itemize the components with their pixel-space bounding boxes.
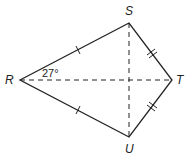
angle-label: 27° <box>42 67 59 79</box>
vertex-label-t: T <box>176 73 185 87</box>
vertex-label-s: S <box>125 4 133 18</box>
kite-diagram: R S T U 27° <box>0 0 192 163</box>
vertex-label-u: U <box>125 142 134 156</box>
vertex-label-r: R <box>5 73 14 87</box>
